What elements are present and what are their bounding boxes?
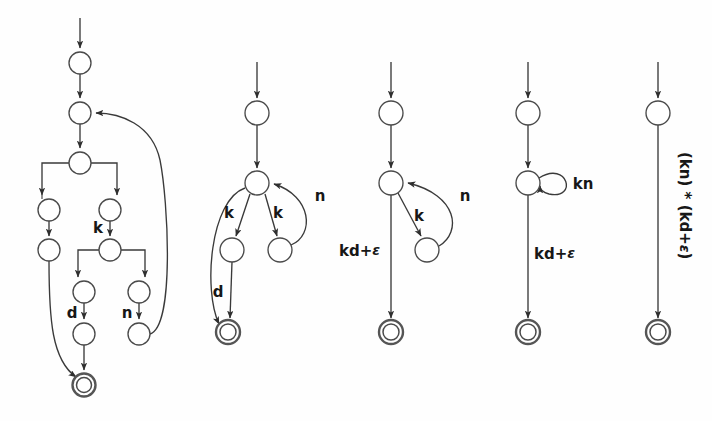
edge-label-k: k: [93, 219, 104, 237]
edge-label-kd-eps: kd+ε: [339, 242, 380, 260]
self-loop-kn: [539, 173, 566, 194]
kd-text: kd+: [534, 245, 567, 263]
state-node[interactable]: [38, 199, 60, 221]
edge-label-n: n: [460, 187, 471, 205]
state-node[interactable]: [69, 152, 91, 174]
epsilon-glyph: ε: [372, 242, 380, 258]
edge-k-left: [236, 194, 250, 236]
automaton-5: (kn) * (kd+ε): [646, 62, 694, 344]
accept-state-inner: [520, 324, 536, 340]
edge-s2-s3: [42, 163, 69, 195]
state-node[interactable]: [516, 101, 540, 125]
edge-s6-s8: [121, 250, 145, 277]
state-node[interactable]: [245, 171, 269, 195]
state-node[interactable]: [128, 281, 150, 303]
accept-state-inner: [650, 324, 666, 340]
edge-label-kd-eps: kd+ε: [534, 245, 575, 263]
edge-label-k-left: k: [224, 204, 235, 222]
accept-state-inner: [77, 378, 92, 393]
state-node[interactable]: [69, 102, 91, 124]
state-node[interactable]: [646, 101, 670, 125]
state-node[interactable]: [245, 101, 269, 125]
state-node[interactable]: [73, 281, 95, 303]
state-node[interactable]: [516, 171, 540, 195]
automaton-3: k n kd+ε: [339, 62, 470, 344]
automaton-4: kn kd+ε: [516, 62, 593, 344]
edge-left-accept: [230, 262, 232, 318]
edge-label-n: n: [315, 187, 326, 205]
edge-s2-s4: [91, 163, 117, 195]
state-node[interactable]: [69, 52, 91, 74]
state-node[interactable]: [73, 323, 95, 345]
automaton-1: k d n: [38, 18, 167, 397]
state-node[interactable]: [379, 171, 403, 195]
edge-label-d: d: [213, 283, 224, 301]
state-node[interactable]: [415, 238, 439, 262]
accept-state-inner: [383, 324, 399, 340]
state-node[interactable]: [220, 238, 244, 262]
regex-tail: ): [676, 253, 694, 260]
state-node[interactable]: [268, 238, 292, 262]
edge-s6-s7: [78, 250, 99, 277]
edge-label-kn: kn: [573, 175, 594, 193]
figure-root: k d n k k n d: [0, 0, 712, 421]
regex-head: (kn) * (kd+: [676, 152, 694, 245]
state-node[interactable]: [99, 239, 121, 261]
state-node[interactable]: [38, 239, 60, 261]
automaton-2: k k n d: [211, 62, 325, 344]
edge-label-d: d: [67, 304, 78, 322]
automata-diagram: k d n k k n d: [0, 0, 712, 421]
epsilon-glyph: ε: [677, 245, 693, 253]
state-node[interactable]: [128, 323, 150, 345]
kd-text: kd+: [339, 242, 372, 260]
edge-label-regex: (kn) * (kd+ε): [676, 152, 694, 259]
edge-label-k-right: k: [273, 204, 284, 222]
epsilon-glyph: ε: [567, 245, 575, 261]
accept-state-inner: [220, 324, 236, 340]
edge-label-n: n: [122, 304, 133, 322]
edge-label-k: k: [414, 207, 425, 225]
state-node[interactable]: [379, 101, 403, 125]
